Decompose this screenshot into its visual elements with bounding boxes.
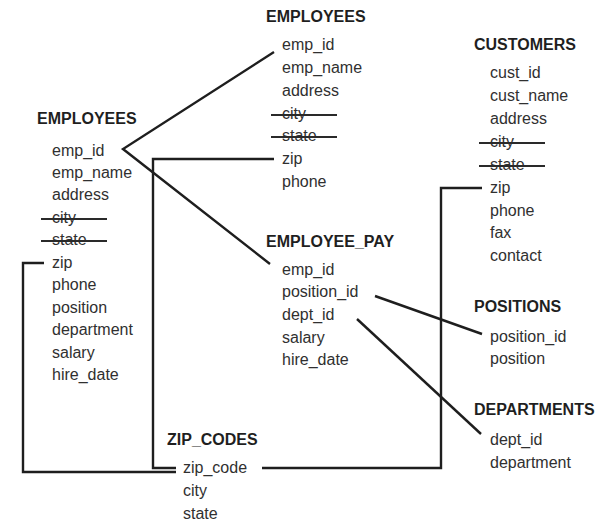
field-emp-id: emp_id [282, 260, 334, 280]
field-city-removed: city [490, 132, 514, 152]
field-emp-name: emp_name [282, 58, 362, 78]
field-zip: zip [52, 253, 72, 273]
field-department: department [490, 453, 571, 473]
field-address: address [490, 109, 547, 129]
field-department: department [52, 320, 133, 340]
field-address: address [282, 81, 339, 101]
field-position-id: position_id [282, 282, 359, 302]
table-customers: CUSTOMERS cust_id cust_name address city… [474, 35, 584, 265]
field-salary: salary [282, 328, 325, 348]
field-cust-name: cust_name [490, 86, 568, 106]
table-employees-original: EMPLOYEES emp_id emp_name address city s… [37, 109, 157, 389]
strikethrough [271, 136, 337, 138]
field-list: position_id position [490, 327, 600, 377]
field-list: emp_id emp_name address city state zip p… [52, 141, 172, 401]
field-dept-id: dept_id [282, 305, 335, 325]
field-position: position [490, 349, 545, 369]
field-emp-id: emp_id [52, 141, 104, 161]
field-fax: fax [490, 223, 511, 243]
field-position: position [52, 298, 107, 318]
table-title: ZIP_CODES [167, 430, 258, 450]
field-address: address [52, 185, 109, 205]
field-city: city [183, 481, 207, 501]
field-contact: contact [490, 246, 542, 266]
field-dept-id: dept_id [490, 430, 543, 450]
table-title: EMPLOYEES [266, 7, 376, 27]
field-state-removed: state [282, 126, 317, 146]
table-title: EMPLOYEES [37, 109, 157, 129]
table-title: CUSTOMERS [474, 35, 584, 55]
field-list: cust_id cust_name address city state zip… [490, 63, 600, 273]
field-city-removed: city [282, 104, 306, 124]
table-departments: DEPARTMENTS dept_id department [474, 400, 595, 470]
table-employee-pay: EMPLOYEE_PAY emp_id position_id dept_id … [266, 232, 394, 372]
field-phone: phone [282, 172, 327, 192]
field-zip: zip [282, 149, 302, 169]
field-emp-id: emp_id [282, 35, 334, 55]
strikethrough [41, 240, 107, 242]
field-city-removed: city [52, 208, 76, 228]
field-list: emp_id position_id dept_id salary hire_d… [282, 260, 392, 380]
field-state-removed: state [490, 155, 525, 175]
field-zip-code: zip_code [183, 458, 247, 478]
field-emp-name: emp_name [52, 163, 132, 183]
strikethrough [479, 165, 545, 167]
table-zip-codes: ZIP_CODES zip_code city state [167, 430, 258, 520]
table-title: EMPLOYEE_PAY [266, 232, 394, 252]
strikethrough [479, 142, 545, 144]
strikethrough [271, 114, 337, 116]
field-salary: salary [52, 343, 95, 363]
field-list: emp_id emp_name address city state zip p… [282, 35, 392, 195]
table-positions: POSITIONS position_id position [474, 297, 584, 367]
field-phone: phone [52, 275, 97, 295]
field-cust-id: cust_id [490, 63, 541, 83]
field-state: state [183, 504, 218, 524]
field-list: zip_code city state [183, 458, 273, 525]
field-state-removed: state [52, 230, 87, 250]
field-hire-date: hire_date [282, 350, 349, 370]
field-list: dept_id department [490, 430, 600, 480]
table-title: POSITIONS [474, 297, 584, 317]
strikethrough [41, 218, 107, 220]
field-phone: phone [490, 201, 535, 221]
field-zip: zip [490, 178, 510, 198]
table-employees-new: EMPLOYEES emp_id emp_name address city s… [266, 7, 376, 187]
field-hire-date: hire_date [52, 365, 119, 385]
field-position-id: position_id [490, 327, 567, 347]
table-title: DEPARTMENTS [474, 400, 595, 420]
